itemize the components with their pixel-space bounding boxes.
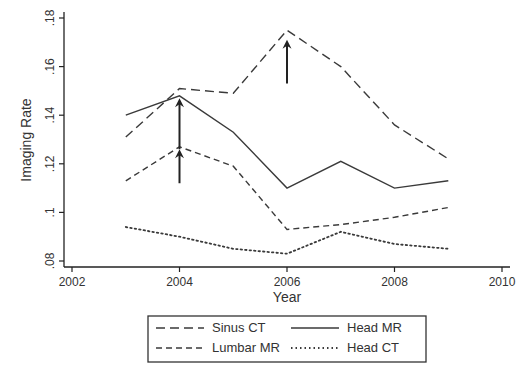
y-tick-label: .16 [43, 58, 57, 75]
y-tick-label: .12 [43, 155, 57, 172]
legend: Sinus CTHead MRLumbar MRHead CT [148, 316, 426, 362]
arrow-up-icon [175, 98, 184, 149]
y-tick-label: .08 [43, 252, 57, 269]
y-tick-label: .1 [43, 207, 57, 217]
y-axis-title: Imaging Rate [18, 98, 34, 181]
x-tick-label: 2002 [59, 275, 86, 289]
x-tick-label: 2004 [166, 275, 193, 289]
legend-item-head-ct: Head CT [291, 340, 399, 355]
y-tick-label: .18 [43, 9, 57, 26]
series-head-mr [126, 96, 449, 188]
arrow-up-icon [283, 40, 292, 84]
y-axis: .08.1.12.14.16.18 [43, 9, 64, 269]
legend-item-lumbar-mr: Lumbar MR [156, 340, 280, 355]
legend-label: Sinus CT [212, 320, 266, 335]
line-chart: .08.1.12.14.16.18 20022004200620082010 I… [0, 0, 529, 377]
x-tick-label: 2010 [489, 275, 516, 289]
y-tick-label: .14 [43, 107, 57, 124]
legend-item-sinus-ct: Sinus CT [156, 320, 266, 335]
legend-label: Head CT [347, 340, 399, 355]
plot-area [126, 30, 449, 254]
x-tick-label: 2008 [381, 275, 408, 289]
arrow-up-icon [175, 149, 184, 183]
legend-label: Head MR [347, 320, 402, 335]
x-axis: 20022004200620082010 [59, 267, 516, 289]
x-tick-label: 2006 [274, 275, 301, 289]
legend-item-head-mr: Head MR [291, 320, 402, 335]
x-axis-title: Year [273, 289, 302, 305]
series-head-ct [126, 227, 449, 254]
legend-label: Lumbar MR [212, 340, 280, 355]
